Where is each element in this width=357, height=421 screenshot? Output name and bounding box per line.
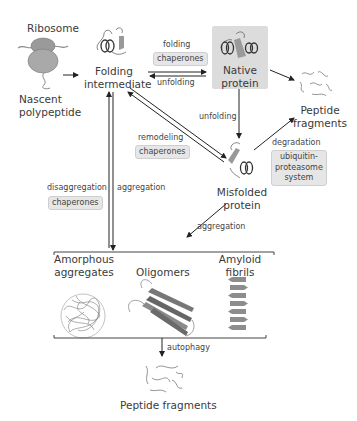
native-protein-label: Native protein <box>212 64 268 89</box>
amyloid-fibrils-icon <box>228 277 248 330</box>
ribosome-icon <box>18 38 68 89</box>
autophagy-label: autophagy <box>167 343 210 353</box>
peptide-fragments-bottom-icon <box>146 366 183 392</box>
peptide-fragments-bottom-label: Peptide fragments <box>120 399 217 412</box>
folding-intermediate-icon <box>97 28 126 54</box>
amyloid-line-2: fibrils <box>218 266 262 279</box>
aggregation-label-2: aggregation <box>197 222 245 232</box>
misfolded-line-2: protein <box>212 199 272 212</box>
nascent-polypeptide-label: Nascent polypeptide <box>19 93 81 118</box>
disaggregation-label: disaggregation <box>47 183 107 193</box>
disaggregation-chaperones-badge: chaperones <box>48 196 103 210</box>
misfolded-line-1: Misfolded <box>212 186 272 199</box>
oligomers-label: Oligomers <box>136 266 190 279</box>
ups-line-1: ubiquitin- <box>275 152 323 163</box>
ubiquitin-proteasome-badge: ubiquitin- proteasome system <box>271 150 327 186</box>
aggregation-label-1: aggregation <box>117 183 165 193</box>
peptide-fragments-top-label: Peptide fragments <box>292 104 348 129</box>
ups-line-2: proteasome <box>275 163 323 174</box>
unfolding-label-2: unfolding <box>199 112 237 122</box>
amorphous-aggregates-icon <box>61 294 105 338</box>
folding-chaperones-badge: chaperones <box>153 52 208 66</box>
native-line-2: protein <box>212 77 268 90</box>
amorphous-aggregates-label: Amorphous aggregates <box>52 253 116 278</box>
amorphous-line-2: aggregates <box>52 266 116 279</box>
folding-intermediate-label: Folding intermediate <box>84 65 144 90</box>
folding-intermediate-line-2: intermediate <box>84 78 144 91</box>
misfolded-protein-label: Misfolded protein <box>212 186 272 211</box>
ups-line-3: system <box>275 173 323 184</box>
remodeling-chaperones-badge: chaperones <box>135 145 190 159</box>
misfolded-protein-icon <box>228 143 253 178</box>
peptide-top-line-1: Peptide <box>292 104 348 117</box>
folding-intermediate-line-1: Folding <box>84 65 144 78</box>
folding-label: folding <box>163 40 190 50</box>
unfolding-label-1: unfolding <box>157 78 195 88</box>
nascent-line-1: Nascent <box>19 93 81 106</box>
amyloid-fibrils-label: Amyloid fibrils <box>218 253 262 278</box>
amyloid-line-1: Amyloid <box>218 253 262 266</box>
native-line-1: Native <box>212 64 268 77</box>
degradation-label: degradation <box>272 138 321 148</box>
amorphous-line-1: Amorphous <box>52 253 116 266</box>
remodeling-label: remodeling <box>138 133 183 143</box>
oligomers-icon <box>129 280 194 336</box>
peptide-fragments-icon <box>300 72 332 96</box>
native-protein-icon <box>221 32 257 58</box>
nascent-line-2: polypeptide <box>19 106 81 119</box>
peptide-top-line-2: fragments <box>292 117 348 130</box>
ribosome-label: Ribosome <box>27 22 79 35</box>
